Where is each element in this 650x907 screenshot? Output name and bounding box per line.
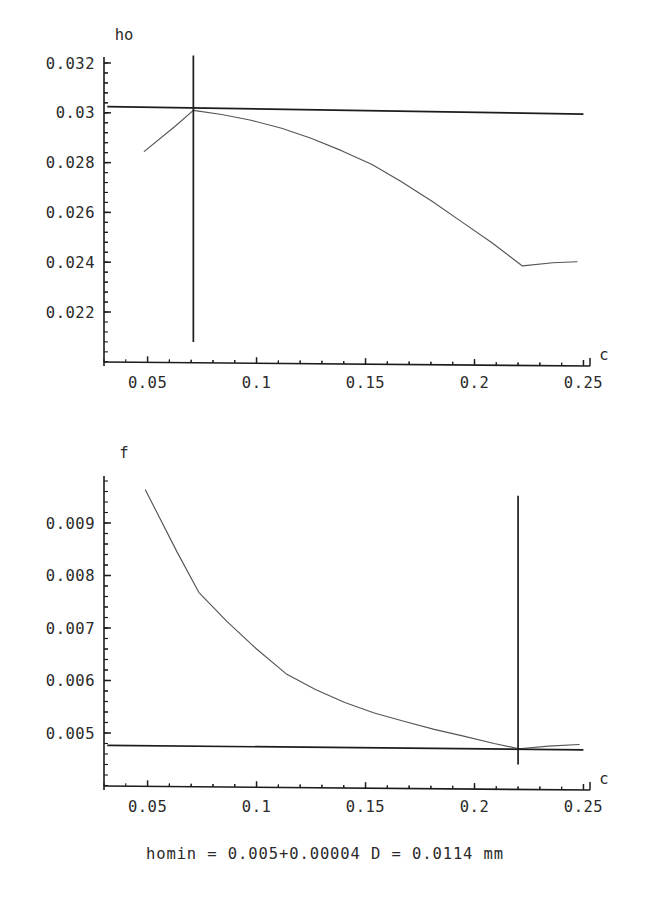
x-tick-label: 0.1 xyxy=(242,374,272,392)
y-tick-label: 0.026 xyxy=(46,204,95,222)
x-tick-label: 0.25 xyxy=(564,374,603,392)
y-axis-title: ho xyxy=(115,26,134,44)
x-tick-label: 0.2 xyxy=(460,798,490,816)
y-tick-label: 0.009 xyxy=(46,515,95,533)
y-tick-label: 0.007 xyxy=(46,620,95,638)
figure-page: 0.050.10.150.20.250.0220.0240.0260.0280.… xyxy=(0,0,650,907)
y-tick-label: 0.03 xyxy=(56,104,95,122)
x-axis-line xyxy=(104,362,590,366)
x-tick-label: 0.05 xyxy=(128,798,167,816)
figure-caption: homin = 0.005+0.00004 D = 0.0114 mm xyxy=(0,845,650,863)
x-axis-line xyxy=(104,786,590,790)
x-axis-title: c xyxy=(599,770,608,788)
x-tick-label: 0.05 xyxy=(128,374,167,392)
data-curve-ho xyxy=(144,110,577,266)
y-tick-label: 0.005 xyxy=(46,725,95,743)
y-tick-label: 0.022 xyxy=(46,304,95,322)
f-plot-svg: 0.050.10.150.20.250.0050.0060.0070.0080.… xyxy=(0,400,650,840)
x-tick-label: 0.2 xyxy=(460,374,490,392)
y-tick-label: 0.006 xyxy=(46,672,95,690)
chart-panel-f: 0.050.10.150.20.250.0050.0060.0070.0080.… xyxy=(0,400,650,840)
x-tick-label: 0.1 xyxy=(242,798,272,816)
chart-panel-ho: 0.050.10.150.20.250.0220.0240.0260.0280.… xyxy=(0,0,650,400)
x-tick-label: 0.15 xyxy=(346,374,385,392)
y-tick-label: 0.028 xyxy=(46,154,95,172)
y-axis-title: f xyxy=(119,444,128,462)
y-tick-label: 0.024 xyxy=(46,254,95,272)
x-axis-title: c xyxy=(599,346,608,364)
y-tick-label: 0.032 xyxy=(46,55,95,73)
y-tick-label: 0.008 xyxy=(46,567,95,585)
ho-plot-svg: 0.050.10.150.20.250.0220.0240.0260.0280.… xyxy=(0,0,650,400)
x-tick-label: 0.15 xyxy=(346,798,385,816)
x-tick-label: 0.25 xyxy=(564,798,603,816)
data-curve-f xyxy=(145,490,579,749)
reference-level-line xyxy=(107,107,583,114)
